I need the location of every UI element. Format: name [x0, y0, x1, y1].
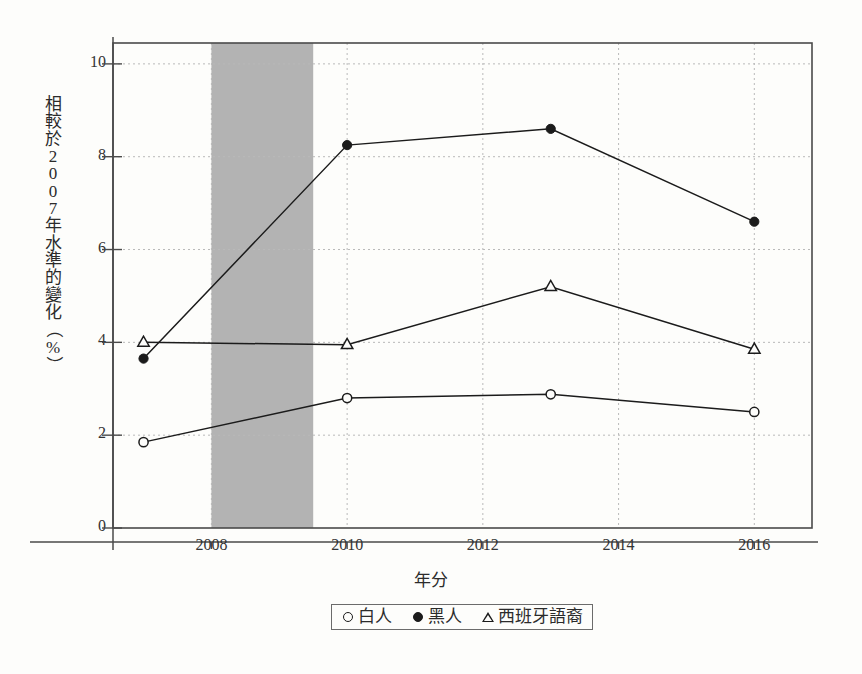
marker-filled-circle: [139, 354, 148, 363]
chart-figure: 相較於2007年水準的變化（%） 0246810 200820102012201…: [0, 0, 862, 674]
chart-legend: 白人 黑人 西班牙語裔: [331, 604, 593, 630]
marker-open-circle: [546, 390, 555, 399]
marker-open-circle: [750, 407, 759, 416]
marker-filled-circle: [750, 217, 759, 226]
filled-circle-icon: [411, 608, 424, 625]
marker-open-triangle: [545, 280, 556, 290]
x-tick-label: 2012: [467, 536, 499, 554]
marker-filled-circle: [546, 124, 555, 133]
legend-label-hispanic: 西班牙語裔: [498, 608, 583, 625]
x-tick-label: 2010: [331, 536, 363, 554]
x-tick-label: 2008: [195, 536, 227, 554]
x-axis-label: 年分: [0, 566, 862, 591]
legend-label-white: 白人: [358, 608, 392, 625]
marker-open-circle: [139, 438, 148, 447]
open-circle-icon: [341, 608, 354, 625]
legend-label-black: 黑人: [428, 608, 462, 625]
recession-shading: [211, 43, 313, 528]
x-axis-tick-labels: 20082010201220142016: [0, 536, 862, 566]
marker-open-triangle: [138, 336, 149, 346]
marker-filled-circle: [343, 141, 352, 150]
open-triangle-icon: [481, 608, 494, 625]
legend-item-hispanic[interactable]: 西班牙語裔: [481, 608, 583, 625]
x-tick-label: 2016: [738, 536, 770, 554]
legend-item-white[interactable]: 白人: [341, 608, 392, 625]
legend-item-black[interactable]: 黑人: [411, 608, 462, 625]
marker-open-circle: [343, 393, 352, 402]
x-tick-label: 2014: [603, 536, 635, 554]
